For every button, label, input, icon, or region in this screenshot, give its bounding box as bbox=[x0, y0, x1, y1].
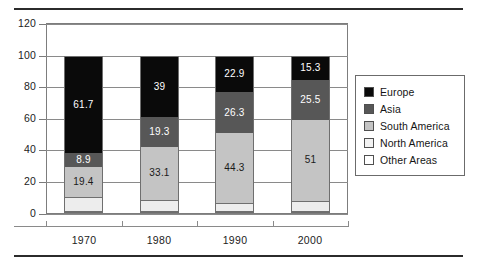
legend-item-south-america[interactable]: South America bbox=[364, 117, 458, 134]
x-tick-mark-3 bbox=[273, 221, 274, 227]
y-tick-mark-40 bbox=[39, 150, 46, 151]
x-tick-label-1990: 1990 bbox=[207, 234, 263, 246]
bar-segment-1980-other-areas[interactable] bbox=[140, 211, 179, 213]
legend-swatch-icon bbox=[364, 87, 374, 97]
legend-item-label: Other Areas bbox=[380, 154, 437, 166]
bar-segment-value-label: 25.5 bbox=[300, 95, 320, 105]
y-tick-mark-80 bbox=[39, 87, 46, 88]
bar-segment-1970-north-america[interactable] bbox=[64, 197, 103, 211]
bar-segment-2000-asia[interactable]: 25.5 bbox=[291, 80, 330, 120]
legend-item-asia[interactable]: Asia bbox=[364, 100, 458, 117]
x-tick-label-1980: 1980 bbox=[131, 234, 187, 246]
bar-segment-1970-south-america[interactable]: 19.4 bbox=[64, 167, 103, 198]
legend-item-label: Europe bbox=[380, 86, 414, 98]
bar-segment-1970-europe[interactable]: 61.7 bbox=[64, 56, 103, 153]
y-tick-label-0: 0 bbox=[2, 207, 36, 219]
legend-item-label: Asia bbox=[380, 103, 401, 115]
x-tick-label-2000: 2000 bbox=[282, 234, 338, 246]
x-axis-line bbox=[14, 226, 348, 227]
legend-swatch-icon bbox=[364, 155, 374, 165]
gridline-0 bbox=[46, 214, 348, 215]
x-tick-mark-2 bbox=[197, 221, 198, 227]
stacked-bar-1970[interactable]: 61.78.919.4 bbox=[64, 56, 103, 214]
bar-segment-1990-asia[interactable]: 26.3 bbox=[215, 92, 254, 134]
y-tick-label-60: 60 bbox=[2, 112, 36, 124]
bar-segment-1990-europe[interactable]: 22.9 bbox=[215, 56, 254, 92]
bar-segment-value-label: 33.1 bbox=[149, 168, 169, 178]
stacked-bar-1980[interactable]: 3919.333.1 bbox=[140, 56, 179, 214]
bar-segment-value-label: 19.3 bbox=[149, 127, 169, 137]
bar-segment-1970-asia[interactable]: 8.9 bbox=[64, 153, 103, 167]
y-tick-label-100: 100 bbox=[2, 49, 36, 61]
x-tick-label-1970: 1970 bbox=[56, 234, 112, 246]
y-tick-label-40: 40 bbox=[2, 143, 36, 155]
bar-segment-value-label: 15.3 bbox=[300, 63, 320, 73]
bar-segment-1980-north-america[interactable] bbox=[140, 200, 179, 212]
y-tick-label-80: 80 bbox=[2, 80, 36, 92]
legend-swatch-icon bbox=[364, 121, 374, 131]
bar-segment-value-label: 44.3 bbox=[224, 163, 244, 173]
legend-item-label: South America bbox=[380, 120, 450, 132]
chart-legend: EuropeAsiaSouth AmericaNorth AmericaOthe… bbox=[355, 75, 465, 176]
x-tick-mark-0 bbox=[46, 221, 47, 227]
stacked-bar-2000[interactable]: 15.325.551 bbox=[291, 56, 330, 214]
y-tick-mark-120 bbox=[39, 24, 46, 25]
legend-item-europe[interactable]: Europe bbox=[364, 83, 458, 100]
stacked-bar-1990[interactable]: 22.926.344.3 bbox=[215, 56, 254, 214]
bar-segment-2000-north-america[interactable] bbox=[291, 201, 330, 212]
x-tick-mark-1 bbox=[122, 221, 123, 227]
legend-item-other-areas[interactable]: Other Areas bbox=[364, 151, 458, 168]
y-tick-mark-0 bbox=[39, 214, 46, 215]
y-tick-label-120: 120 bbox=[2, 17, 36, 29]
y-tick-mark-100 bbox=[39, 56, 46, 57]
bar-segment-value-label: 51 bbox=[305, 155, 317, 165]
bottom-divider-rule bbox=[14, 255, 463, 257]
bar-segment-1980-europe[interactable]: 39 bbox=[140, 56, 179, 117]
bar-segment-1980-south-america[interactable]: 33.1 bbox=[140, 147, 179, 199]
gridline-120 bbox=[46, 24, 348, 25]
bar-segment-1980-asia[interactable]: 19.3 bbox=[140, 117, 179, 147]
legend-item-north-america[interactable]: North America bbox=[364, 134, 458, 151]
legend-swatch-icon bbox=[364, 104, 374, 114]
bar-segment-1990-north-america[interactable] bbox=[215, 203, 254, 211]
bar-segment-2000-other-areas[interactable] bbox=[291, 211, 330, 213]
bar-segment-2000-europe[interactable]: 15.3 bbox=[291, 56, 330, 80]
bar-segment-2000-south-america[interactable]: 51 bbox=[291, 120, 330, 201]
legend-swatch-icon bbox=[364, 138, 374, 148]
bar-segment-value-label: 61.7 bbox=[73, 100, 93, 110]
bar-segment-value-label: 39 bbox=[154, 82, 166, 92]
bar-segment-1990-other-areas[interactable] bbox=[215, 211, 254, 213]
bar-segment-value-label: 19.4 bbox=[73, 177, 93, 187]
x-tick-mark-end bbox=[348, 221, 349, 227]
y-tick-mark-20 bbox=[39, 182, 46, 183]
chart-page: 020406080100120 1970198019902000 61.78.9… bbox=[0, 0, 477, 273]
bar-segment-value-label: 8.9 bbox=[76, 155, 91, 165]
top-divider-rule bbox=[14, 8, 463, 10]
bar-segment-value-label: 22.9 bbox=[224, 69, 244, 79]
bar-segment-1970-other-areas[interactable] bbox=[64, 211, 103, 213]
bar-segment-value-label: 26.3 bbox=[224, 108, 244, 118]
bar-segment-1990-south-america[interactable]: 44.3 bbox=[215, 133, 254, 203]
legend-item-label: North America bbox=[380, 137, 448, 149]
y-tick-mark-60 bbox=[39, 119, 46, 120]
y-tick-label-20: 20 bbox=[2, 175, 36, 187]
